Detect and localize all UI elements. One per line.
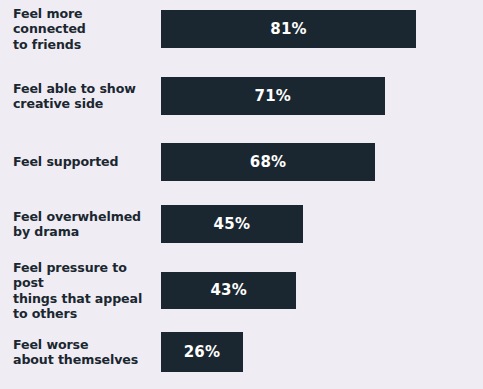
- chart-row: Feel overwhelmed by drama45%: [0, 205, 483, 243]
- bar-value-label: 45%: [214, 217, 251, 232]
- bar-track: 45%: [161, 205, 476, 243]
- bar-value-label: 71%: [255, 89, 292, 104]
- bar-value-label: 26%: [184, 345, 221, 360]
- bar-value-label: 68%: [250, 155, 287, 170]
- bar: 26%: [161, 332, 243, 372]
- bar-value-label: 81%: [270, 22, 307, 37]
- chart-row: Feel more connected to friends81%: [0, 10, 483, 48]
- bar: 68%: [161, 143, 375, 181]
- bar-category-label: Feel worse about themselves: [13, 337, 156, 368]
- bar-value-label: 43%: [210, 283, 247, 298]
- bar-category-label: Feel pressure to post things that appeal…: [13, 260, 156, 322]
- bar: 81%: [161, 10, 416, 48]
- bar-track: 68%: [161, 143, 476, 181]
- chart-row: Feel worse about themselves26%: [0, 332, 483, 372]
- bar-track: 26%: [161, 332, 476, 372]
- bar: 45%: [161, 205, 303, 243]
- bar-track: 81%: [161, 10, 476, 48]
- bar: 43%: [161, 272, 296, 309]
- bar-category-label: Feel more connected to friends: [13, 6, 156, 53]
- chart-row: Feel supported68%: [0, 143, 483, 181]
- bar-track: 43%: [161, 272, 476, 309]
- horizontal-bar-chart: Feel more connected to friends81%Feel ab…: [0, 0, 483, 389]
- bar-category-label: Feel able to show creative side: [13, 81, 156, 112]
- bar-track: 71%: [161, 77, 476, 115]
- chart-row: Feel pressure to post things that appeal…: [0, 272, 483, 309]
- chart-row: Feel able to show creative side71%: [0, 77, 483, 115]
- bar: 71%: [161, 77, 385, 115]
- bar-category-label: Feel overwhelmed by drama: [13, 209, 156, 240]
- bar-category-label: Feel supported: [13, 154, 156, 170]
